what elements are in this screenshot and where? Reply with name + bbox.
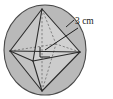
radius-label: 3 cm — [75, 16, 94, 26]
sphere-octahedron-figure: 3 cm — [0, 0, 113, 99]
